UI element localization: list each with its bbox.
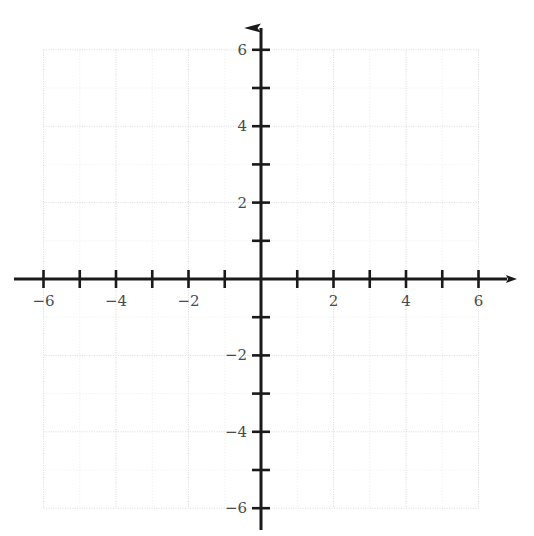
x-axis-tick-label: 6 [474,292,484,310]
y-axis-tick-label: −2 [225,346,247,364]
y-axis-tick-label: 6 [237,41,247,59]
y-axis-tick-label: −6 [225,499,247,517]
y-axis-tick-label: −4 [225,423,247,441]
x-axis-tick-label: 4 [401,292,411,310]
y-axis-tick-label: 4 [237,117,247,135]
coordinate-plane-figure: −6−4−2246642−2−4−6 [0,0,534,536]
x-axis-tick-label: −2 [177,292,199,310]
graph-canvas: −6−4−2246642−2−4−6 [0,0,534,536]
x-axis-tick-label: −6 [32,292,54,310]
x-axis-tick-label: 2 [329,292,339,310]
x-axis-tick-label: −4 [105,292,127,310]
y-axis-tick-label: 2 [237,194,247,212]
axis-lines [14,28,507,530]
